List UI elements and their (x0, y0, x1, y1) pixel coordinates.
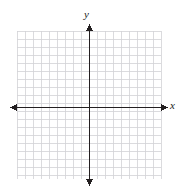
coordinate-plane-figure: x y (0, 0, 185, 189)
x-axis-label: x (170, 100, 175, 111)
coordinate-plane-canvas (0, 0, 185, 189)
y-axis-label: y (84, 9, 89, 20)
